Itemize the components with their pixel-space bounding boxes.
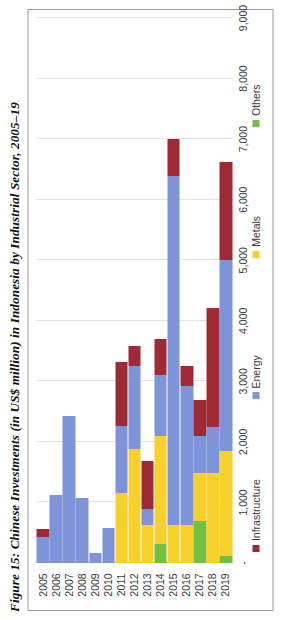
square-swatch-icon: [252, 120, 259, 127]
bar-segment-energy[interactable]: [128, 366, 141, 449]
bar-segment-infrastructure[interactable]: [115, 362, 128, 426]
bar-segment-others[interactable]: [219, 556, 232, 563]
axis-tick-label: 3,000: [236, 358, 248, 404]
bar-segment-energy[interactable]: [141, 509, 154, 525]
axis-tick-label: -: [236, 540, 248, 586]
bar-group[interactable]: [193, 18, 206, 563]
figure: Figure 15: Chinese Investments (in US$ m…: [0, 0, 281, 620]
category-label-2016: 2016: [179, 565, 191, 605]
bar-segment-infrastructure[interactable]: [193, 400, 206, 436]
bar-segment-metals[interactable]: [219, 451, 232, 556]
category-label-2014: 2014: [153, 565, 165, 605]
bar-segment-metals[interactable]: [115, 493, 128, 563]
bar-segment-others[interactable]: [193, 521, 206, 563]
bar-segment-energy[interactable]: [36, 537, 49, 563]
legend-item-energy[interactable]: Energy: [250, 355, 261, 399]
bar-segment-energy[interactable]: [206, 427, 219, 472]
bar-segment-infrastructure[interactable]: [180, 366, 193, 387]
bar-segment-infrastructure[interactable]: [167, 139, 180, 176]
legend-item-metals[interactable]: Metals: [250, 216, 261, 258]
bar-segment-metals[interactable]: [167, 525, 180, 563]
bar-segment-energy[interactable]: [219, 260, 232, 451]
category-label-2019: 2019: [218, 565, 230, 605]
category-label-2018: 2018: [205, 565, 217, 605]
plot-area: [36, 18, 232, 563]
axis-tick-label: 4,000: [236, 298, 248, 344]
category-label-2013: 2013: [140, 565, 152, 605]
bar-segment-infrastructure[interactable]: [141, 461, 154, 509]
axis-tick-label: 6,000: [236, 177, 248, 223]
category-label-2011: 2011: [114, 565, 126, 605]
bar-group[interactable]: [115, 18, 128, 563]
square-swatch-icon: [252, 545, 259, 552]
bar-group[interactable]: [89, 18, 102, 563]
category-label-2006: 2006: [49, 565, 61, 605]
legend-item-infrastructure[interactable]: Infrastructure: [250, 479, 261, 552]
bar-segment-infrastructure[interactable]: [154, 339, 167, 375]
square-swatch-icon: [252, 251, 259, 258]
bar-group[interactable]: [49, 18, 62, 563]
bar-segment-energy[interactable]: [102, 528, 115, 563]
bar-segment-energy[interactable]: [62, 416, 75, 563]
bar-group[interactable]: [128, 18, 141, 563]
category-label-2005: 2005: [36, 565, 48, 605]
axis-tick-label: 9,000: [236, 0, 248, 41]
bar-segment-energy[interactable]: [154, 375, 167, 436]
axis-tick-label: 8,000: [236, 56, 248, 102]
category-label-2017: 2017: [192, 565, 204, 605]
bar-segment-energy[interactable]: [75, 498, 88, 563]
legend-label: Infrastructure: [250, 479, 261, 541]
category-label-2008: 2008: [75, 565, 87, 605]
chart-frame: InfrastructureEnergyMetalsOthers -1,0002…: [27, 9, 273, 611]
bar-segment-energy[interactable]: [193, 436, 206, 474]
bar-group[interactable]: [154, 18, 167, 563]
bar-group[interactable]: [219, 18, 232, 563]
rotated-figure-wrapper: Figure 15: Chinese Investments (in US$ m…: [0, 0, 281, 620]
bar-segment-infrastructure[interactable]: [219, 162, 232, 260]
bar-group[interactable]: [206, 18, 219, 563]
bar-segment-metals[interactable]: [206, 473, 219, 563]
bar-segment-energy[interactable]: [115, 426, 128, 494]
axis-tick-label: 5,000: [236, 237, 248, 283]
bar-group[interactable]: [75, 18, 88, 563]
legend-item-others[interactable]: Others: [250, 84, 261, 127]
legend-label: Metals: [250, 216, 261, 247]
category-label-2010: 2010: [101, 565, 113, 605]
bar-segment-energy[interactable]: [180, 386, 193, 525]
bar-group[interactable]: [36, 18, 49, 563]
bar-segment-metals[interactable]: [154, 436, 167, 543]
bar-segment-energy[interactable]: [167, 176, 180, 525]
category-label-2009: 2009: [88, 565, 100, 605]
square-swatch-icon: [252, 393, 259, 400]
bar-group[interactable]: [180, 18, 193, 563]
bar-segment-infrastructure[interactable]: [36, 529, 49, 537]
axis-tick-label: 2,000: [236, 419, 248, 465]
bar-segment-metals[interactable]: [193, 473, 206, 520]
category-label-2012: 2012: [127, 565, 139, 605]
bar-segment-metals[interactable]: [128, 449, 141, 563]
bar-group[interactable]: [141, 18, 154, 563]
chart-legend: InfrastructureEnergyMetalsOthers: [250, 18, 268, 563]
bar-group[interactable]: [167, 18, 180, 563]
bar-segment-metals[interactable]: [141, 525, 154, 563]
axis-tick-label: 1,000: [236, 479, 248, 525]
category-label-2015: 2015: [166, 565, 178, 605]
legend-label: Energy: [250, 355, 261, 388]
legend-label: Others: [250, 84, 261, 116]
bar-group[interactable]: [62, 18, 75, 563]
figure-caption: Figure 15: Chinese Investments (in US$ m…: [6, 8, 22, 612]
axis-tick-label: 7,000: [236, 116, 248, 162]
bar-segment-energy[interactable]: [49, 495, 62, 563]
bar-segment-energy[interactable]: [89, 553, 102, 563]
bar-group[interactable]: [102, 18, 115, 563]
bar-segment-infrastructure[interactable]: [206, 308, 219, 427]
bar-segment-infrastructure[interactable]: [128, 346, 141, 366]
bar-segment-others[interactable]: [154, 544, 167, 563]
bar-segment-metals[interactable]: [180, 525, 193, 563]
category-label-2007: 2007: [62, 565, 74, 605]
